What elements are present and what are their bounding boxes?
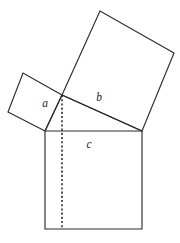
square-on-leg-a <box>8 73 62 131</box>
label-b: b <box>96 91 102 103</box>
geometry-canvas: a b c <box>0 0 180 243</box>
label-a: a <box>42 97 48 109</box>
square-on-hypotenuse-c <box>45 131 142 229</box>
geometry-figure: a b c <box>0 0 180 243</box>
label-c: c <box>86 138 91 150</box>
square-on-leg-b <box>62 11 174 131</box>
